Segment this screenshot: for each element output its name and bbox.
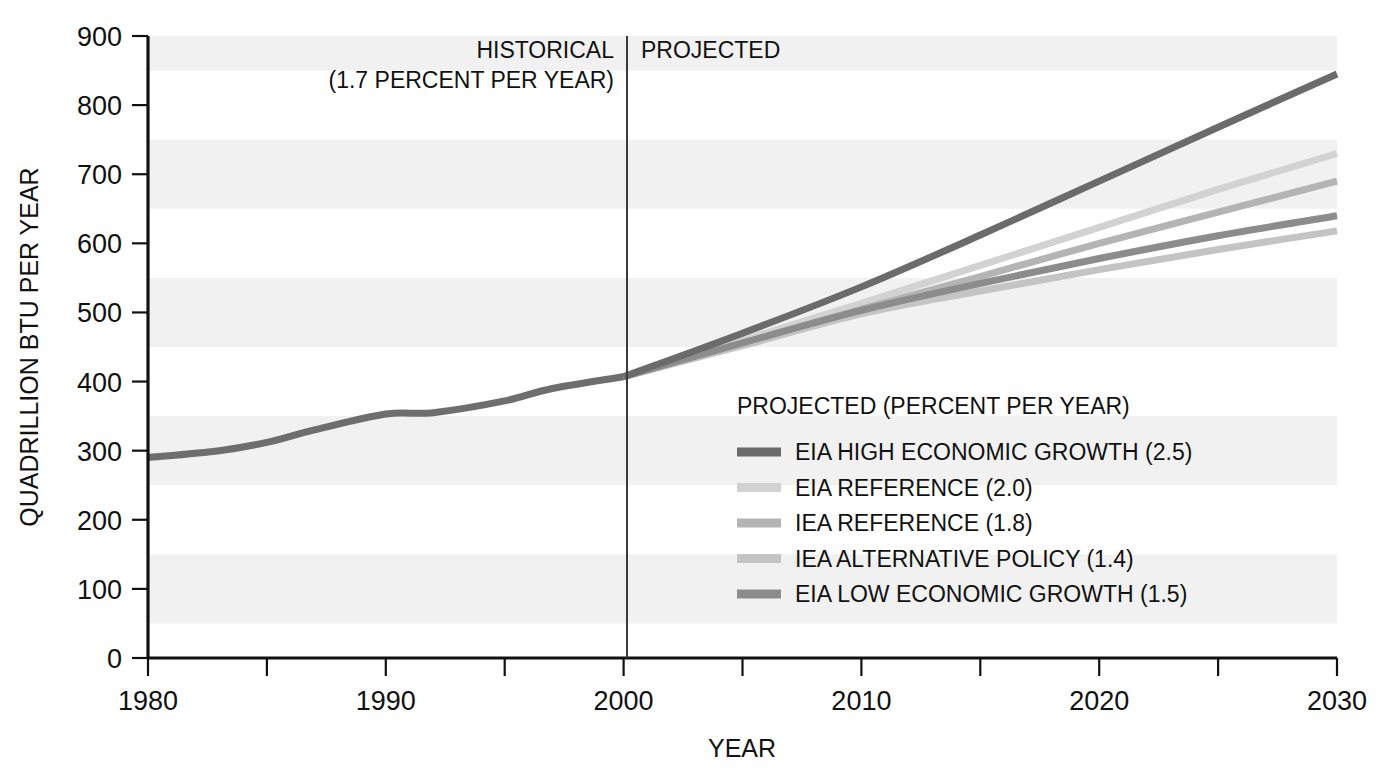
- x-tick-label: 1990: [356, 686, 416, 716]
- x-tick-label: 2010: [831, 686, 891, 716]
- x-axis-ticks: 198019902000201020202030: [118, 658, 1367, 716]
- legend-swatch: [737, 590, 781, 599]
- projected-annotation: PROJECTED: [641, 37, 780, 63]
- x-axis-title: YEAR: [708, 734, 776, 762]
- y-tick-label: 0: [107, 644, 122, 674]
- legend-swatch: [737, 554, 781, 563]
- legend-title: PROJECTED (PERCENT PER YEAR): [737, 393, 1130, 419]
- y-tick-label: 400: [77, 368, 122, 398]
- x-tick-label: 2030: [1307, 686, 1367, 716]
- legend-label: EIA LOW ECONOMIC GROWTH (1.5): [795, 581, 1187, 607]
- y-tick-label: 800: [77, 91, 122, 121]
- y-tick-label: 100: [77, 575, 122, 605]
- x-tick-label: 1980: [118, 686, 178, 716]
- y-axis-ticks: 0100200300400500600700800900: [77, 22, 148, 674]
- legend-label: EIA HIGH ECONOMIC GROWTH (2.5): [795, 439, 1192, 465]
- energy-consumption-line-chart: 0100200300400500600700800900 19801990200…: [0, 0, 1390, 776]
- y-tick-label: 700: [77, 160, 122, 190]
- historical-annotation-line2: (1.7 PERCENT PER YEAR): [329, 67, 614, 93]
- legend-entry-list: EIA HIGH ECONOMIC GROWTH (2.5)EIA REFERE…: [737, 439, 1192, 607]
- y-axis-title: QUADRILLION BTU PER YEAR: [15, 167, 43, 526]
- x-tick-label: 2020: [1069, 686, 1129, 716]
- y-tick-label: 900: [77, 22, 122, 52]
- x-tick-label: 2000: [594, 686, 654, 716]
- legend-label: EIA REFERENCE (2.0): [795, 475, 1033, 501]
- y-tick-label: 500: [77, 298, 122, 328]
- legend-label: IEA REFERENCE (1.8): [795, 510, 1033, 536]
- legend-swatch: [737, 483, 781, 492]
- y-tick-label: 600: [77, 229, 122, 259]
- historical-annotation-line1: HISTORICAL: [476, 37, 614, 63]
- chart-figure: 0100200300400500600700800900 19801990200…: [0, 0, 1390, 776]
- legend-swatch: [737, 519, 781, 528]
- legend-label: IEA ALTERNATIVE POLICY (1.4): [795, 546, 1134, 572]
- background-band: [148, 140, 1337, 209]
- legend-swatch: [737, 448, 781, 457]
- y-tick-label: 200: [77, 506, 122, 536]
- y-tick-label: 300: [77, 437, 122, 467]
